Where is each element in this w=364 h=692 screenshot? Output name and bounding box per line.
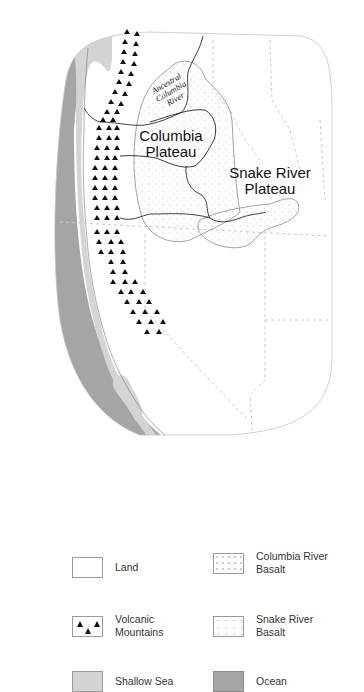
legend-item-columbia-river-basalt: Columbia River Basalt xyxy=(213,550,343,576)
label-columbia-plateau: Columbia Plateau xyxy=(131,128,211,160)
legend-label: Columbia River Basalt xyxy=(256,550,343,576)
legend-label: Volcanic Mountains xyxy=(115,613,202,639)
volcano-icon xyxy=(94,621,100,627)
snake-river-basalt-swatch xyxy=(213,616,244,637)
label-snake-river-plateau: Snake River Plateau xyxy=(226,165,314,197)
shallow-sea-swatch xyxy=(72,671,103,692)
legend-label: Ocean xyxy=(256,675,287,688)
geologic-map: Ancestral Columbia River Columbia Platea… xyxy=(0,0,364,480)
legend-label: Land xyxy=(115,561,138,574)
legend-item-shallow-sea: Shallow Sea xyxy=(72,671,173,692)
columbia-river-basalt-swatch xyxy=(213,553,244,574)
legend-label: Snake River Basalt xyxy=(256,613,343,639)
volcano-icon xyxy=(77,621,83,627)
legend-label: Shallow Sea xyxy=(115,675,173,688)
legend-item-ocean: Ocean xyxy=(213,671,287,692)
land-swatch xyxy=(72,557,103,578)
volcanic-mountains-swatch xyxy=(72,616,103,637)
ocean-swatch xyxy=(213,671,244,692)
legend-item-snake-river-basalt: Snake River Basalt xyxy=(213,613,343,639)
legend-item-land: Land xyxy=(72,557,138,578)
volcano-icon xyxy=(85,628,91,634)
legend-item-volcanic-mountains: Volcanic Mountains xyxy=(72,613,202,639)
